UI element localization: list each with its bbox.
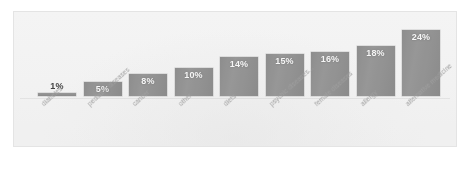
bar-chart: 1%5%8%10%14%15%16%18%24% diabetespediatr… xyxy=(13,11,457,147)
bar-value-label: 24% xyxy=(402,32,440,42)
bar-value-label: 16% xyxy=(311,54,349,64)
bar-value-label: 18% xyxy=(357,48,395,58)
bar-value-label: 8% xyxy=(129,76,167,86)
screenshot-root: 1%5%8%10%14%15%16%18%24% diabetespediatr… xyxy=(0,0,471,169)
plot-area: 1%5%8%10%14%15%16%18%24% diabetespediatr… xyxy=(14,12,456,146)
bar-value-label: 14% xyxy=(220,59,258,69)
bar-value-label: 10% xyxy=(175,70,213,80)
bar-value-label: 15% xyxy=(266,56,304,66)
